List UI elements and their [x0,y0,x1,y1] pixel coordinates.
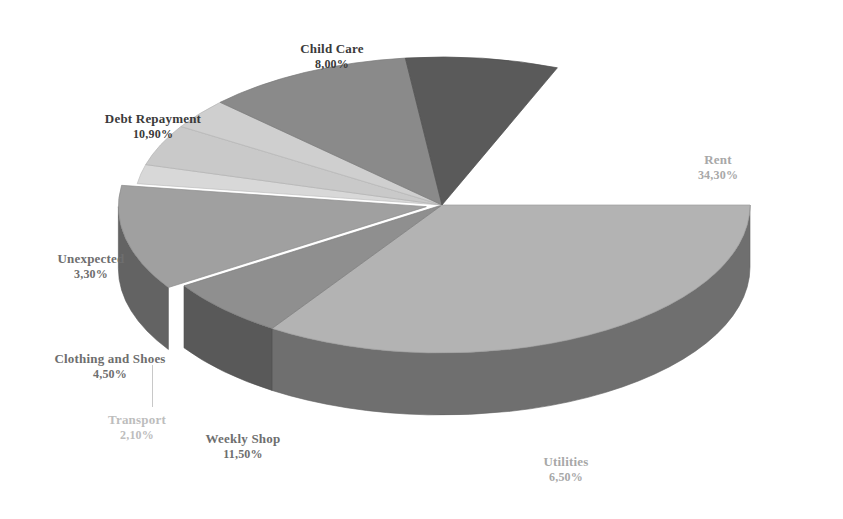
pie-chart-canvas: Rent34,30%Utilities6,50%Weekly Shop11,50… [0,0,843,519]
pie-chart-graphic [0,0,843,519]
leader-line-transport [152,365,153,407]
